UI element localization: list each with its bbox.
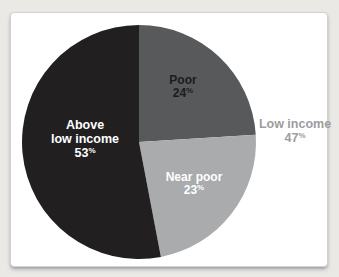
pie-slice-poor [139,25,256,142]
page-background: Poor 24% Near poor 23% Above low income … [0,0,339,277]
chart-card: Poor 24% Near poor 23% Above low income … [10,12,328,267]
pie-chart [11,13,327,266]
